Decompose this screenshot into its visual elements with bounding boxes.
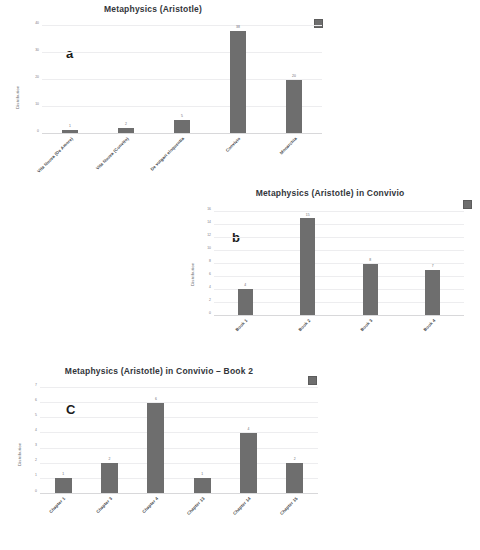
bar-value-label-b: 15 <box>306 214 310 217</box>
y-tick-label-b: 6 <box>209 272 211 275</box>
x-tick-label-c: Chapter 15 <box>278 496 298 516</box>
chart-panel-a: Metaphysics (Aristotle)Distributiona0102… <box>0 4 340 189</box>
bar-c[interactable] <box>240 433 257 493</box>
x-tick-label-c: Chapter 13 <box>186 496 206 516</box>
bar-b[interactable] <box>363 264 378 316</box>
bar-slot-c: 6Chapter 4 <box>133 388 179 493</box>
x-tick-label-c: Chapter 3 <box>95 496 113 514</box>
bar-slot-b: 7Book 4 <box>402 212 465 315</box>
bar-slot-a: 5De vulgari eloquentia <box>154 26 210 133</box>
bar-value-label-a: 38 <box>236 26 240 29</box>
bar-value-label-c: 1 <box>62 473 64 476</box>
y-axis-label-c: Distribution <box>17 443 22 466</box>
x-tick-label-a: Monarchia <box>278 136 297 155</box>
bar-b[interactable] <box>300 218 315 315</box>
y-tick-label-a: 10 <box>35 102 39 105</box>
x-axis-line-c <box>40 493 318 494</box>
y-tick-label-b: 12 <box>207 233 211 236</box>
x-tick-label-a: De vulgari eloquentia <box>150 136 186 172</box>
chart-title-c: Metaphysics (Aristotle) in Convivio – Bo… <box>34 366 284 376</box>
x-tick-label-a: Convivio <box>225 136 242 153</box>
bar-slot-a: 20Monarchia <box>266 26 322 133</box>
bar-slot-b: 8Book 3 <box>339 212 402 315</box>
bar-slot-a: 2Vita Nuova (Convito) <box>98 26 154 133</box>
x-tick-label-c: Chapter 1 <box>49 496 67 514</box>
legend-swatch-icon-c <box>308 376 317 385</box>
bar-c[interactable] <box>147 403 164 493</box>
bar-value-label-a: 20 <box>292 75 296 78</box>
x-axis-line-b <box>214 315 464 316</box>
bar-slot-a: 1Vita Nuova (De Amore) <box>42 26 98 133</box>
bar-a[interactable] <box>286 80 302 134</box>
y-tick-label-c: 5 <box>35 413 37 416</box>
y-tick-label-a: 0 <box>37 129 39 132</box>
y-tick-label-b: 0 <box>209 311 211 314</box>
x-tick-label-a: Vita Nuova (Convito) <box>95 136 130 171</box>
bar-value-label-b: 8 <box>369 259 371 262</box>
bar-value-label-b: 4 <box>244 284 246 287</box>
y-axis-label-a: Distribution <box>15 86 20 109</box>
bar-slot-c: 2Chapter 15 <box>272 388 318 493</box>
chart-title-b: Metaphysics (Aristotle) in Convivio <box>210 188 450 198</box>
y-tick-label-b: 4 <box>209 285 211 288</box>
y-tick-label-a: 30 <box>35 48 39 51</box>
bar-slot-b: 4Book 1 <box>214 212 277 315</box>
bar-c[interactable] <box>194 478 211 493</box>
bar-slot-a: 38Convivio <box>210 26 266 133</box>
plot-area-c: 012345671Chapter 12Chapter 36Chapter 41C… <box>40 388 318 494</box>
bar-value-label-c: 2 <box>294 458 296 461</box>
bar-a[interactable] <box>230 31 246 133</box>
bar-a[interactable] <box>118 128 134 133</box>
x-tick-label-b: Book 4 <box>422 318 436 332</box>
bar-slot-c: 4Chapter 14 <box>225 388 271 493</box>
bar-group-a: 1Vita Nuova (De Amore)2Vita Nuova (Convi… <box>42 26 322 133</box>
bar-value-label-b: 7 <box>432 265 434 268</box>
x-tick-label-a: Vita Nuova (De Amore) <box>36 136 74 174</box>
chart-panel-c: Metaphysics (Aristotle) in Convivio – Bo… <box>8 366 340 550</box>
bar-value-label-c: 2 <box>109 458 111 461</box>
y-tick-label-b: 16 <box>207 207 211 210</box>
x-tick-label-c: Chapter 14 <box>232 496 252 516</box>
y-tick-label-b: 8 <box>209 259 211 262</box>
y-tick-label-c: 0 <box>35 489 37 492</box>
bar-c[interactable] <box>101 463 118 493</box>
plot-area-b: 02468101214164Book 115Book 28Book 37Book… <box>214 212 464 316</box>
x-tick-label-b: Book 1 <box>235 318 249 332</box>
bar-value-label-a: 5 <box>181 115 183 118</box>
x-axis-line-a <box>42 133 322 134</box>
x-tick-label-b: Book 3 <box>360 318 374 332</box>
bar-slot-c: 1Chapter 13 <box>179 388 225 493</box>
bar-slot-c: 1Chapter 1 <box>40 388 86 493</box>
bar-group-b: 4Book 115Book 28Book 37Book 4 <box>214 212 464 315</box>
y-tick-label-c: 4 <box>35 429 37 432</box>
bar-value-label-c: 6 <box>155 398 157 401</box>
y-tick-label-c: 2 <box>35 459 37 462</box>
bar-c[interactable] <box>55 478 72 493</box>
y-tick-label-a: 20 <box>35 75 39 78</box>
bar-group-c: 1Chapter 12Chapter 36Chapter 41Chapter 1… <box>40 388 318 493</box>
y-tick-label-c: 3 <box>35 444 37 447</box>
y-tick-label-b: 10 <box>207 246 211 249</box>
chart-panel-b: Metaphysics (Aristotle) in ConvivioDistr… <box>180 188 480 363</box>
bar-value-label-a: 2 <box>125 123 127 126</box>
y-tick-label-c: 6 <box>35 398 37 401</box>
y-tick-label-b: 14 <box>207 220 211 223</box>
y-tick-label-b: 2 <box>209 298 211 301</box>
y-axis-label-b: Distribution <box>190 263 195 286</box>
bar-b[interactable] <box>238 289 253 315</box>
y-tick-label-c: 7 <box>35 383 37 386</box>
y-tick-label-a: 40 <box>35 21 39 24</box>
chart-title-a: Metaphysics (Aristotle) <box>38 4 268 14</box>
bar-value-label-c: 1 <box>201 473 203 476</box>
x-tick-label-b: Book 2 <box>297 318 311 332</box>
bar-a[interactable] <box>174 120 190 133</box>
bar-b[interactable] <box>425 270 440 315</box>
bar-a[interactable] <box>62 130 78 133</box>
y-tick-label-c: 1 <box>35 474 37 477</box>
bar-slot-b: 15Book 2 <box>277 212 340 315</box>
legend-swatch-icon-b <box>463 200 472 209</box>
x-tick-label-c: Chapter 4 <box>141 496 159 514</box>
bar-c[interactable] <box>286 463 303 493</box>
bar-value-label-c: 4 <box>248 428 250 431</box>
plot-area-a: 0102030401Vita Nuova (De Amore)2Vita Nuo… <box>42 26 322 134</box>
